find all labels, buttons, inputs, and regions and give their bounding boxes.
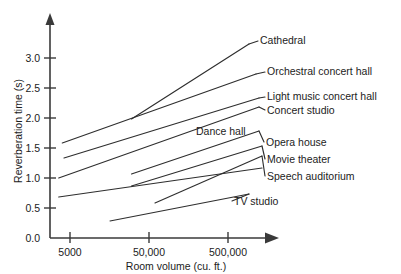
series-label-tv-studio: TV studio — [234, 195, 279, 207]
y-tick-label-0-5: 0.5 — [25, 202, 40, 214]
series-line-speech-auditorium — [59, 168, 262, 197]
series-label-opera-house: Opera house — [266, 136, 327, 148]
series-line-cathedral — [132, 44, 250, 119]
y-tick-label-2-0: 2.0 — [25, 112, 40, 124]
series-line-tv-studio — [110, 194, 249, 221]
series-label-light-music-concert-hall: Light music concert hall — [267, 90, 377, 102]
series-line-concert-studio — [59, 107, 259, 178]
y-axis-title: Reverberation time (s) — [12, 79, 24, 183]
y-tick-label-1-0: 1.0 — [25, 172, 40, 184]
y-tick-label-2-5: 2.5 — [25, 82, 40, 94]
y-tick-label-3-0: 3.0 — [25, 52, 40, 64]
leader-opera-house — [259, 131, 264, 142]
x-axis-arrowhead — [265, 233, 279, 244]
y-tick-label-1-5: 1.5 — [25, 142, 40, 154]
leader-cathedral — [249, 41, 258, 44]
x-tick-label-500000: 500,000 — [209, 246, 247, 258]
y-tick-label-0-0: 0.0 — [25, 232, 40, 244]
x-axis-title: Room volume (cu. ft.) — [126, 260, 226, 272]
series-label-dance-hall: Dance hall — [196, 125, 246, 137]
x-tick-label-50000: 50,000 — [133, 246, 165, 258]
leader-concert-studio — [259, 107, 265, 110]
leader-light-music-concert-hall — [259, 97, 265, 98]
series-label-speech-auditorium: Speech auditorium — [267, 170, 355, 182]
series-label-orchestral-concert-hall: Orchestral concert hall — [267, 65, 372, 77]
series-label-concert-studio: Concert studio — [267, 104, 335, 116]
series-label-cathedral: Cathedral — [260, 34, 306, 46]
x-tick-label-5000: 5000 — [58, 246, 82, 258]
reverberation-time-chart: 3.0 2.5 2.0 1.5 1.0 0.5 0.0 5000 50,000 … — [0, 0, 401, 274]
y-axis-arrowhead — [46, 13, 55, 25]
leader-orchestral-concert-hall — [256, 72, 265, 74]
series-label-movie-theater: Movie theater — [267, 153, 331, 165]
chart-plot-area: 3.0 2.5 2.0 1.5 1.0 0.5 0.0 5000 50,000 … — [0, 0, 401, 274]
